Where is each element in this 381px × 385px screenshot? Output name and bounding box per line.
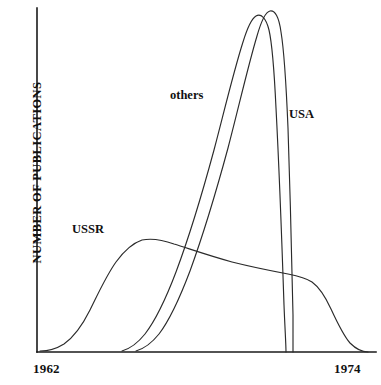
publications-line-chart: NUMBER OF PUBLICATIONS 1962 1974 USSR ot… (0, 0, 381, 385)
series-label-ussr: USSR (72, 222, 104, 237)
y-axis-label: NUMBER OF PUBLICATIONS (30, 63, 45, 283)
series-label-others: others (170, 88, 203, 103)
x-axis-tick-end: 1974 (334, 361, 361, 377)
curve-others (122, 15, 286, 352)
series-label-usa: USA (289, 107, 314, 122)
curve-ussr (40, 239, 368, 352)
x-axis-tick-start: 1962 (33, 361, 60, 377)
curve-usa (136, 11, 293, 352)
chart-plot-area (0, 0, 381, 385)
